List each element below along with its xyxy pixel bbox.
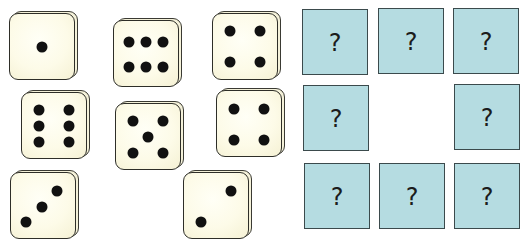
question-mark-icon: ? <box>406 185 419 209</box>
die-face <box>113 20 179 87</box>
pip-icon <box>141 61 152 72</box>
question-mark-icon: ? <box>480 30 493 54</box>
pip-icon <box>228 104 239 115</box>
pip-icon <box>224 25 235 36</box>
die-face <box>212 13 278 80</box>
question-mark-icon: ? <box>331 185 344 209</box>
pip-icon <box>255 57 266 68</box>
pip-icon <box>124 36 135 47</box>
die-3[interactable] <box>10 172 76 238</box>
die-6[interactable] <box>113 20 179 86</box>
question-box[interactable]: ? <box>454 163 520 229</box>
pip-icon <box>157 36 168 47</box>
question-mark-icon: ? <box>481 106 494 130</box>
pip-icon <box>33 104 44 115</box>
pip-icon <box>157 61 168 72</box>
die-5[interactable] <box>115 103 181 169</box>
pip-icon <box>158 148 169 159</box>
question-box[interactable]: ? <box>379 163 445 229</box>
die-4[interactable] <box>216 90 282 156</box>
pip-icon <box>228 135 239 146</box>
pip-icon <box>64 120 75 131</box>
pip-icon <box>224 57 235 68</box>
die-face <box>115 103 181 170</box>
pip-icon <box>127 148 138 159</box>
die-2[interactable] <box>183 172 249 238</box>
die-face <box>216 90 282 157</box>
die-6[interactable] <box>21 92 87 158</box>
pip-icon <box>195 217 206 228</box>
pip-icon <box>21 217 32 228</box>
pip-icon <box>64 104 75 115</box>
pip-icon <box>143 131 154 142</box>
question-box[interactable]: ? <box>378 8 444 74</box>
pip-icon <box>124 61 135 72</box>
question-mark-icon: ? <box>330 107 343 131</box>
question-box[interactable]: ? <box>453 8 519 74</box>
pip-icon <box>127 115 138 126</box>
question-mark-icon: ? <box>481 185 494 209</box>
die-face <box>21 92 87 159</box>
pip-icon <box>33 137 44 148</box>
pip-icon <box>226 186 237 197</box>
pip-icon <box>37 41 48 52</box>
pip-icon <box>259 135 270 146</box>
die-face <box>183 172 249 239</box>
pip-icon <box>158 115 169 126</box>
pip-icon <box>259 104 270 115</box>
question-box[interactable]: ? <box>302 9 368 75</box>
die-face <box>10 172 76 239</box>
pip-icon <box>64 137 75 148</box>
pip-icon <box>36 201 47 212</box>
pip-icon <box>141 36 152 47</box>
die-4[interactable] <box>212 13 278 79</box>
pip-icon <box>52 186 63 197</box>
pip-icon <box>255 25 266 36</box>
question-box[interactable]: ? <box>304 163 370 229</box>
question-mark-icon: ? <box>405 30 418 54</box>
question-box[interactable]: ? <box>454 84 520 150</box>
question-mark-icon: ? <box>329 31 342 55</box>
die-1[interactable] <box>9 13 75 79</box>
pip-icon <box>33 120 44 131</box>
die-face <box>9 13 75 80</box>
question-box[interactable]: ? <box>303 85 369 151</box>
